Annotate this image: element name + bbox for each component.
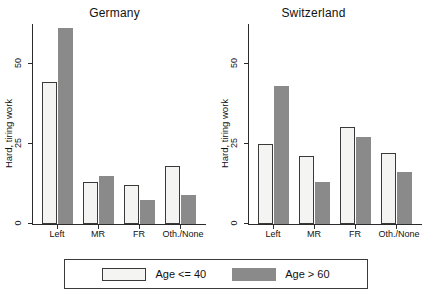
y-axis-title-germany: Hard, tiring work	[2, 78, 16, 188]
y-tick-label-50-germany: 50	[10, 55, 26, 71]
bar-germany-mr-age-gt-60	[99, 176, 114, 224]
x-label-germany-mr: MR	[91, 229, 105, 239]
bar-group-switzerland-mr	[299, 26, 330, 224]
panel-germany: Germany Hard, tiring work 0 25 50	[0, 0, 215, 250]
bar-group-switzerland-other	[381, 26, 412, 224]
plot-area-germany: 0 25 50	[38, 26, 204, 224]
legend-entry-age-lte-40: Age <= 40	[102, 268, 206, 281]
chart-legend: Age <= 40 Age > 60	[64, 259, 368, 289]
bar-switzerland-mr-age-gt-60	[315, 182, 330, 224]
y-tick-50-germany	[28, 63, 32, 64]
bar-germany-fr-age-gt-60	[140, 200, 155, 224]
y-tick-label-50-switzerland: 50	[226, 55, 242, 71]
x-label-switzerland-left: Left	[265, 229, 280, 239]
panel-switzerland: Switzerland Hard, tiring work 0 25 50	[214, 0, 429, 250]
bar-germany-other-age-lte-40	[165, 166, 180, 224]
y-tick-0-germany	[28, 223, 32, 224]
plot-area-switzerland: 0 25 50	[254, 26, 420, 224]
x-label-switzerland-mr: MR	[307, 229, 321, 239]
bar-switzerland-fr-age-lte-40	[340, 127, 355, 224]
x-label-germany-other: Oth./None	[162, 229, 203, 239]
bar-switzerland-mr-age-lte-40	[299, 156, 314, 224]
bar-germany-fr-age-lte-40	[124, 185, 139, 224]
bar-switzerland-other-age-lte-40	[381, 153, 396, 224]
bar-group-switzerland-fr	[340, 26, 371, 224]
y-axis-title-text-germany: Hard, tiring work	[4, 98, 15, 167]
bar-group-germany-mr	[83, 26, 114, 224]
panel-title-germany: Germany	[0, 6, 215, 20]
bar-germany-left-age-gt-60	[58, 28, 73, 224]
bar-germany-left-age-lte-40	[42, 82, 57, 224]
legend-entry-age-gt-60: Age > 60	[232, 268, 329, 281]
y-tick-50-switzerland	[244, 63, 248, 64]
x-label-switzerland-fr: FR	[349, 229, 361, 239]
bar-germany-mr-age-lte-40	[83, 182, 98, 224]
y-axis-line-germany	[32, 24, 33, 224]
x-label-germany-fr: FR	[133, 229, 145, 239]
bar-group-germany-left	[42, 26, 73, 224]
bar-switzerland-left-age-lte-40	[258, 144, 273, 225]
legend-label-age-gt-60: Age > 60	[285, 268, 329, 280]
bar-germany-other-age-gt-60	[181, 195, 196, 224]
y-tick-0-switzerland	[244, 223, 248, 224]
bar-group-germany-other	[165, 26, 196, 224]
y-axis-line-switzerland	[248, 24, 249, 224]
legend-label-age-lte-40: Age <= 40	[155, 268, 206, 280]
panel-title-switzerland: Switzerland	[214, 6, 429, 20]
y-tick-label-0-germany: 0	[10, 215, 26, 231]
y-tick-label-0-switzerland: 0	[226, 215, 242, 231]
y-axis-title-text-switzerland: Hard, tiring work	[220, 98, 231, 167]
bar-group-germany-fr	[124, 26, 155, 224]
y-tick-25-switzerland	[244, 143, 248, 144]
x-label-switzerland-other: Oth./None	[378, 229, 419, 239]
y-axis-title-switzerland: Hard, tiring work	[218, 78, 232, 188]
y-tick-25-germany	[28, 143, 32, 144]
bar-switzerland-fr-age-gt-60	[356, 137, 371, 224]
bar-chart-figure: Germany Hard, tiring work 0 25 50	[0, 0, 429, 298]
legend-swatch-age-lte-40	[102, 268, 146, 281]
y-tick-label-25-switzerland: 25	[226, 135, 242, 151]
y-tick-label-25-germany: 25	[10, 135, 26, 151]
x-label-germany-left: Left	[49, 229, 64, 239]
bar-switzerland-other-age-gt-60	[397, 172, 412, 224]
bar-switzerland-left-age-gt-60	[274, 86, 289, 224]
bar-group-switzerland-left	[258, 26, 289, 224]
legend-swatch-age-gt-60	[232, 268, 276, 281]
